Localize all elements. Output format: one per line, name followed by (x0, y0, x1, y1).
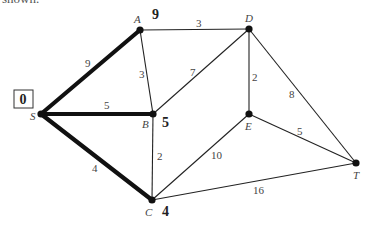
distance-label-S: 0 (20, 92, 27, 107)
edge-weight-B-C: 2 (157, 150, 163, 162)
edge-weight-E-T: 5 (297, 125, 303, 137)
edges-group (41, 29, 356, 200)
distance-label-B: 5 (162, 115, 169, 130)
node-S (37, 110, 44, 117)
node-label-D: D (244, 12, 253, 24)
node-label-E: E (244, 120, 252, 132)
edge-weight-A-B: 3 (139, 68, 145, 80)
node-label-C: C (145, 206, 153, 218)
node-C (148, 196, 155, 203)
distance-label-A: 9 (152, 7, 159, 22)
node-A (136, 26, 143, 33)
edge-weight-S-C: 4 (92, 162, 98, 174)
node-T (352, 159, 359, 166)
edge-weight-D-E: 2 (252, 71, 258, 83)
node-label-B: B (142, 118, 149, 130)
edge-weight-B-D: 7 (190, 66, 196, 78)
edge-weight-C-T: 16 (253, 184, 265, 196)
weighted-graph-diagram: 95433722810516 S0A9B5C4DET (0, 0, 371, 225)
edge-B-D (153, 29, 249, 114)
edge-D-T (249, 29, 356, 163)
edge-S-A (41, 30, 140, 114)
node-label-S: S (30, 110, 36, 122)
distance-label-C: 4 (162, 204, 169, 219)
edge-B-C (152, 114, 153, 200)
node-label-T: T (353, 169, 360, 181)
node-E (245, 110, 252, 117)
edge-weight-D-T: 8 (289, 88, 295, 100)
edge-E-T (249, 114, 356, 163)
node-label-A: A (133, 13, 141, 25)
edge-A-D (140, 29, 249, 30)
edge-weight-A-D: 3 (196, 17, 202, 29)
node-D (245, 25, 252, 32)
node-B (149, 110, 156, 117)
edge-weight-S-A: 9 (85, 57, 91, 69)
edge-weight-S-B: 5 (104, 99, 110, 111)
edge-weight-C-E: 10 (211, 149, 223, 161)
edge-weights-group: 95433722810516 (85, 17, 303, 196)
edge-S-C (41, 114, 152, 200)
